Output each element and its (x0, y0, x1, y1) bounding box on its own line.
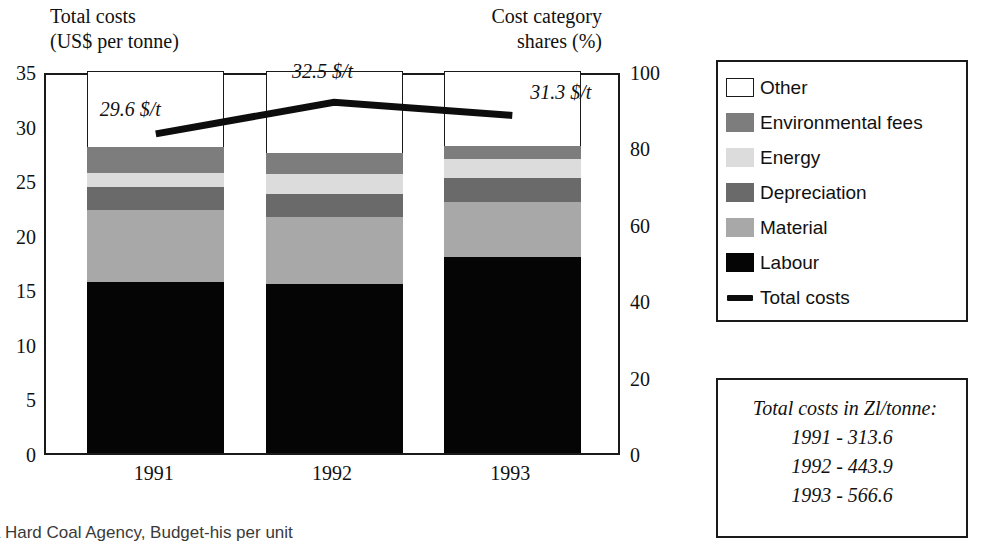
y-left-tick-15: 15 (0, 281, 36, 301)
y-right-tick-80: 80 (630, 139, 676, 159)
legend-label: Total costs (760, 287, 850, 308)
labour-swatch (726, 253, 754, 272)
bar-segment-depreciation (444, 178, 581, 202)
bar-segment-environmental-fees (444, 146, 581, 159)
environmental-fees-swatch (726, 113, 754, 132)
legend-item-total-costs[interactable]: Total costs (726, 280, 966, 315)
legend-label: Material (760, 217, 828, 238)
x-tick-1991: 1991 (85, 462, 222, 484)
material-swatch (726, 218, 754, 237)
total-costs-line-swatch (726, 288, 754, 307)
bar-segment-depreciation (266, 194, 403, 217)
y-left-tick-30: 30 (0, 118, 36, 138)
note-box-heading: Total costs in Zl/tonne: (718, 394, 966, 423)
y-right-tick-0: 0 (630, 445, 676, 465)
legend-item-environmental-fees[interactable]: Environmental fees (726, 105, 966, 140)
y-left-tick-5: 5 (0, 390, 36, 410)
bar-segment-material (87, 210, 224, 282)
line-point-label-1992: 32.5 $/t (292, 60, 353, 82)
y-right-tick-100: 100 (630, 63, 676, 83)
bar-segment-other (266, 71, 403, 153)
bar-segment-depreciation (87, 187, 224, 210)
x-tick-1993: 1993 (442, 462, 579, 484)
bar-segment-material (444, 202, 581, 257)
line-point-label-1991: 29.6 $/t (100, 98, 161, 120)
x-tick-1992: 1992 (264, 462, 401, 484)
note-box-line: 1993 - 566.6 (718, 481, 966, 510)
bar-segment-labour (444, 257, 581, 453)
y-left-tick-10: 10 (0, 336, 36, 356)
bar-1993 (444, 71, 581, 453)
energy-swatch (726, 148, 754, 167)
y-right-tick-40: 40 (630, 292, 676, 312)
note-box-line: 1991 - 313.6 (718, 423, 966, 452)
bar-segment-energy (444, 159, 581, 178)
legend-label: Depreciation (760, 182, 867, 203)
bar-1991 (87, 71, 224, 453)
chart-page: Total costs (US$ per tonne) Cost categor… (0, 0, 982, 548)
bar-segment-environmental-fees (266, 153, 403, 174)
y-left-tick-0: 0 (0, 445, 36, 465)
bar-segment-energy (266, 174, 403, 195)
note-box: Total costs in Zl/tonne: 1991 - 313.6199… (716, 378, 968, 538)
left-axis-title: Total costs (US$ per tonne) (50, 4, 179, 54)
legend-item-material[interactable]: Material (726, 210, 966, 245)
bar-segment-material (266, 217, 403, 284)
legend-item-other[interactable]: Other (726, 70, 966, 105)
chart-area: Total costs (US$ per tonne) Cost categor… (0, 0, 700, 500)
line-point-label-1993: 31.3 $/t (530, 81, 591, 103)
y-left-tick-35: 35 (0, 63, 36, 83)
y-right-tick-20: 20 (630, 369, 676, 389)
legend-item-labour[interactable]: Labour (726, 245, 966, 280)
bar-segment-labour (87, 282, 224, 453)
y-right-tick-60: 60 (630, 216, 676, 236)
bar-segment-energy (87, 173, 224, 187)
plot-area: 29.6 $/t32.5 $/t31.3 $/t (44, 73, 620, 455)
other-swatch (726, 78, 754, 97)
source-caption: ta Hard Coal Agency, Budget-his per unit (0, 523, 293, 543)
y-left-tick-20: 20 (0, 227, 36, 247)
chart-legend: OtherEnvironmental feesEnergyDepreciatio… (716, 60, 968, 322)
y-left-tick-25: 25 (0, 172, 36, 192)
legend-label: Environmental fees (760, 112, 923, 133)
legend-label: Energy (760, 147, 820, 168)
legend-label: Other (760, 77, 808, 98)
legend-item-energy[interactable]: Energy (726, 140, 966, 175)
legend-label: Labour (760, 252, 819, 273)
legend-item-depreciation[interactable]: Depreciation (726, 175, 966, 210)
bar-segment-environmental-fees (87, 147, 224, 172)
depreciation-swatch (726, 183, 754, 202)
note-box-lines: 1991 - 313.61992 - 443.91993 - 566.6 (718, 423, 966, 510)
bar-1992 (266, 71, 403, 453)
note-box-line: 1992 - 443.9 (718, 452, 966, 481)
right-axis-title: Cost category shares (%) (452, 4, 602, 54)
bar-segment-labour (266, 284, 403, 453)
